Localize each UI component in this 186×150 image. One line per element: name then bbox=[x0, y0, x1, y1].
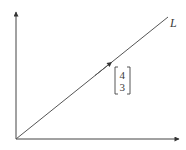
left-bracket-icon bbox=[115, 67, 118, 94]
line-label: L bbox=[169, 16, 177, 30]
right-bracket-icon bbox=[127, 67, 130, 94]
direction-vector: 4 3 bbox=[115, 67, 130, 94]
direction-arrow-icon bbox=[95, 64, 110, 76]
line-l bbox=[16, 17, 168, 139]
diagram-canvas: L 4 3 bbox=[0, 0, 186, 150]
vector-bottom: 3 bbox=[120, 81, 126, 93]
vector-top: 4 bbox=[120, 69, 126, 81]
